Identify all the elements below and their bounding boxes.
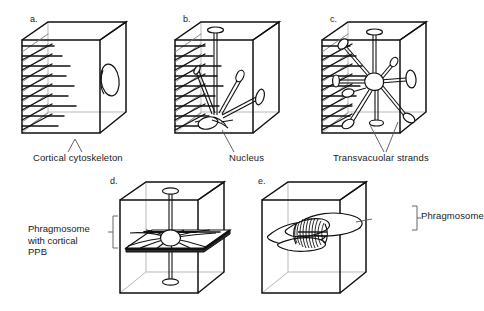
panel-b-letter: b. (183, 14, 191, 24)
panel-c: c. (322, 14, 426, 152)
panel-a-nucleus (99, 63, 121, 97)
panel-d-letter: d. (110, 176, 118, 186)
panel-c-letter: c. (330, 14, 337, 24)
panel-a-cortical-cytoskeleton (22, 34, 76, 131)
panel-a: a. (22, 14, 126, 152)
panel-e: e. (258, 176, 372, 293)
panel-a-letter: a. (30, 14, 38, 24)
panel-d: d. (110, 176, 230, 293)
caption-phragmosome-ppb-line-2: with cortical (28, 235, 112, 247)
caption-phragmosome-ppb-line-1: Phragmosome (28, 223, 112, 235)
caption-phragmosome-ppb-line-3: PPB (28, 246, 112, 258)
panel-b-cortical-cytoskeleton (175, 34, 223, 131)
caption-transvacuolar-strands: Transvacuolar strands (333, 152, 429, 163)
panel-a-leader-line-2 (75, 139, 82, 152)
caption-phragmosome: Phragmosome (421, 210, 484, 221)
panel-b: b. (175, 14, 279, 152)
caption-nucleus: Nucleus (229, 152, 264, 163)
panel-a-leader-line (68, 139, 75, 152)
panel-c-leader-line-1 (370, 125, 384, 152)
panel-c-central-nucleus (365, 73, 384, 90)
panel-e-letter: e. (258, 176, 266, 186)
panel-c-leader-line-2 (386, 122, 398, 152)
caption-cortical-cytoskeleton: Cortical cytoskeleton (33, 152, 123, 163)
caption-phragmosome-with-cortical-ppb: Phragmosome with cortical PPB (28, 223, 112, 258)
bracket-phragmosome (412, 206, 421, 230)
panel-d-nucleus (161, 230, 181, 246)
